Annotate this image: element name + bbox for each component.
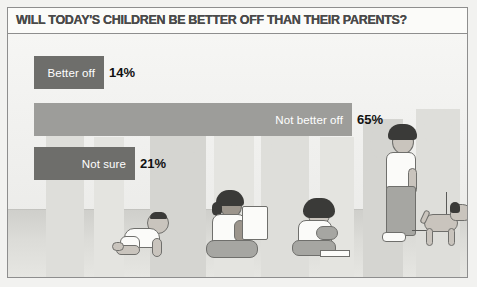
infographic-root: WILL TODAY'S CHILDREN BE BETTER OFF THAN… bbox=[0, 0, 477, 287]
illustration-scene: Better off 14% Not better off 65% Not su… bbox=[8, 34, 467, 277]
drawing-child-arm bbox=[316, 226, 338, 240]
figure-girl-reading bbox=[204, 184, 270, 262]
bar-not-better-off: Not better off bbox=[34, 103, 352, 136]
baby-arm bbox=[152, 238, 162, 257]
baby-foot bbox=[112, 242, 124, 251]
dog-front-leg bbox=[448, 228, 455, 246]
drawing-paper bbox=[320, 250, 350, 257]
bar-value-not-sure: 21% bbox=[140, 156, 166, 171]
page-title: WILL TODAY'S CHILDREN BE BETTER OFF THAN… bbox=[16, 13, 407, 27]
boy-hair bbox=[388, 124, 417, 140]
baby-hair bbox=[150, 212, 167, 219]
title-bar: WILL TODAY'S CHILDREN BE BETTER OFF THAN… bbox=[8, 8, 467, 34]
girl-legs bbox=[206, 240, 258, 258]
figure-boy-walking bbox=[382, 122, 426, 252]
bar-label-not-sure: Not sure bbox=[82, 158, 126, 170]
bar-label-better-off: Better off bbox=[48, 67, 95, 79]
bar-value-better-off: 14% bbox=[109, 65, 135, 80]
figure-dog bbox=[422, 202, 467, 252]
bar-value-not-better-off: 65% bbox=[357, 112, 383, 127]
infographic-frame: WILL TODAY'S CHILDREN BE BETTER OFF THAN… bbox=[7, 7, 468, 278]
dog-ear bbox=[450, 202, 460, 213]
boy-shoe bbox=[382, 232, 406, 242]
figure-child-drawing bbox=[290, 198, 356, 260]
girl-book bbox=[242, 206, 268, 240]
bar-label-not-better-off: Not better off bbox=[275, 114, 343, 126]
drawing-child-hair bbox=[303, 198, 335, 218]
bar-better-off: Better off bbox=[34, 56, 104, 89]
bar-not-sure: Not sure bbox=[34, 147, 135, 180]
dog-back-leg bbox=[426, 228, 433, 246]
figure-crawling-baby bbox=[112, 212, 174, 260]
